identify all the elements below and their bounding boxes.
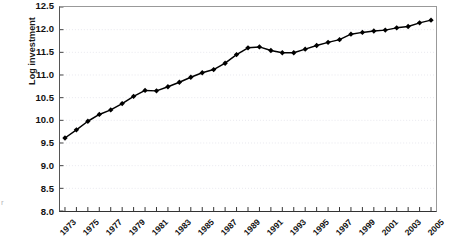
x-tick-label: 1995	[303, 217, 331, 245]
x-tick-label: 1993	[280, 217, 308, 245]
x-tick-label: 1973	[50, 217, 78, 245]
x-tick-label: 2001	[372, 217, 400, 245]
x-tick-label: 1983	[165, 217, 193, 245]
x-tick-label: 1979	[119, 217, 147, 245]
x-tick-label: 1975	[73, 217, 101, 245]
x-tick-label: 1989	[234, 217, 262, 245]
x-tick-label: 2003	[395, 217, 423, 245]
x-tick-label: 1977	[96, 217, 124, 245]
x-tick-label: 1997	[326, 217, 354, 245]
x-tick-label: 2005	[418, 217, 446, 245]
x-tick-label: 1981	[142, 217, 170, 245]
x-tick-label: 1985	[188, 217, 216, 245]
x-axis-tick-labels: 1973197519771979198119831985198719891991…	[0, 0, 449, 248]
x-tick-label: 1987	[211, 217, 239, 245]
x-tick-label: 1999	[349, 217, 377, 245]
line-chart: r Log investment 12.512.011.511.010.510.…	[0, 0, 449, 248]
x-tick-label: 1991	[257, 217, 285, 245]
